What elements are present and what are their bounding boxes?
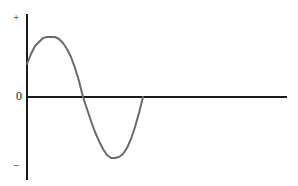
sine-wave-figure: + 0 − [0,0,298,186]
axis-label-positive: + [13,12,19,23]
axis-label-negative: − [13,160,19,171]
axis-label-zero: 0 [16,90,22,102]
plot-canvas [0,0,298,186]
